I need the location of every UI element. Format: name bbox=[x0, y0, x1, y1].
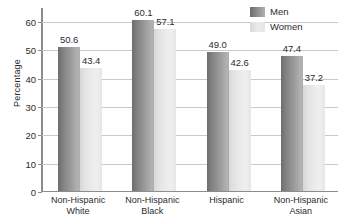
bar-women-1: 57.1 bbox=[154, 29, 176, 191]
y-axis-title: Percentage bbox=[12, 33, 22, 133]
x-axis-label-line: Asian bbox=[264, 206, 338, 217]
x-axis-label-line: Non-Hispanic bbox=[264, 195, 338, 206]
x-axis-label-line: White bbox=[41, 206, 115, 217]
x-axis-label-line: Non-Hispanic bbox=[41, 195, 115, 206]
x-axis-label-2: Hispanic bbox=[190, 195, 264, 206]
y-tick-mark bbox=[38, 192, 42, 193]
x-axis-label-line: Non-Hispanic bbox=[115, 195, 189, 206]
bar-value-label: 43.4 bbox=[82, 55, 101, 66]
x-axis-label-line: Hispanic bbox=[190, 195, 264, 206]
legend-label-women: Women bbox=[270, 21, 303, 32]
bar-value-label: 57.1 bbox=[156, 16, 175, 27]
x-axis-label-line: Black bbox=[115, 206, 189, 217]
legend-swatch-men-icon bbox=[250, 7, 265, 17]
legend-label-men: Men bbox=[270, 6, 288, 17]
bar-women-3: 37.2 bbox=[303, 85, 325, 190]
plot-area: 0102030405060 50.643.460.157.149.042.647… bbox=[41, 8, 338, 192]
y-tick-label: 60 bbox=[25, 17, 36, 28]
legend-item-men[interactable]: Men bbox=[250, 5, 303, 18]
y-tick-mark bbox=[38, 164, 42, 165]
bar-value-label: 42.6 bbox=[230, 57, 249, 68]
y-tick-mark bbox=[38, 135, 42, 136]
y-tick-label: 20 bbox=[25, 130, 36, 141]
x-axis-label-0: Non-HispanicWhite bbox=[41, 195, 115, 216]
y-tick-label: 50 bbox=[25, 45, 36, 56]
y-tick-mark bbox=[38, 79, 42, 80]
bar-value-label: 49.0 bbox=[208, 39, 227, 50]
y-tick-label: 0 bbox=[31, 187, 36, 198]
y-tick-label: 10 bbox=[25, 158, 36, 169]
legend-swatch-women-icon bbox=[250, 22, 265, 32]
y-tick-mark bbox=[38, 22, 42, 23]
bar-men-2: 49.0 bbox=[207, 52, 229, 191]
bar-men-3: 47.4 bbox=[281, 56, 303, 190]
bar-value-label: 60.1 bbox=[134, 7, 153, 18]
x-axis-line bbox=[41, 191, 338, 193]
chart-legend: Men Women bbox=[250, 5, 303, 35]
bar-women-0: 43.4 bbox=[80, 68, 102, 191]
bar-women-2: 42.6 bbox=[229, 70, 251, 191]
x-axis-label-3: Non-HispanicAsian bbox=[264, 195, 338, 216]
bar-chart: Percentage 0102030405060 50.643.460.157.… bbox=[0, 0, 349, 222]
bar-value-label: 50.6 bbox=[60, 34, 79, 45]
y-tick-label: 40 bbox=[25, 73, 36, 84]
y-tick-mark bbox=[38, 107, 42, 108]
x-axis-label-1: Non-HispanicBlack bbox=[115, 195, 189, 216]
legend-item-women[interactable]: Women bbox=[250, 20, 303, 33]
y-tick-mark bbox=[38, 50, 42, 51]
bar-men-0: 50.6 bbox=[58, 47, 80, 190]
bar-value-label: 37.2 bbox=[305, 72, 324, 83]
bar-value-label: 47.4 bbox=[283, 43, 302, 54]
bar-men-1: 60.1 bbox=[132, 20, 154, 190]
y-tick-label: 30 bbox=[25, 102, 36, 113]
